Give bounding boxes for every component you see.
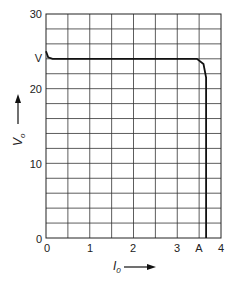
x-tick-3: 3 (174, 242, 180, 254)
svg-text:I0: I0 (113, 259, 121, 275)
x-tick-0: 0 (44, 242, 50, 254)
chart: 30 V 20 10 0 0 1 2 3 A 4 Vo I0 (0, 0, 235, 281)
y-tick-30: 30 (30, 8, 42, 20)
grid (46, 14, 221, 238)
arrow-up-icon (15, 94, 21, 103)
data-curve (46, 51, 206, 238)
y-tick-0: 0 (36, 233, 42, 245)
x-tick-1: 1 (87, 242, 93, 254)
y-tick-10: 10 (30, 158, 42, 170)
v-marker: V (35, 52, 43, 64)
y-axis-subscript: o (18, 133, 27, 138)
y-tick-20: 20 (30, 83, 42, 95)
y-axis-label: Vo (11, 94, 27, 146)
x-axis-subscript: 0 (116, 266, 121, 275)
a-marker: A (195, 242, 203, 254)
x-axis-label: I0 (113, 259, 156, 275)
arrow-right-icon (147, 264, 156, 270)
svg-text:Vo: Vo (11, 133, 27, 146)
x-tick-4: 4 (218, 242, 224, 254)
x-tick-2: 2 (130, 242, 136, 254)
